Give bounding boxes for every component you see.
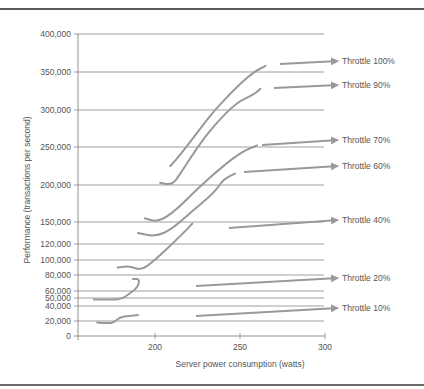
legend-label: Throttle 90% (342, 80, 391, 90)
y-tick-label: 100,000 (40, 255, 71, 265)
x-axis-title: Server power consumption (watts) (176, 359, 305, 369)
legend-arrow (196, 278, 338, 286)
legend-label: Throttle 40% (342, 215, 391, 225)
legend-arrow (244, 166, 338, 172)
legend-arrow (262, 140, 338, 145)
y-tick-label: 400,000 (40, 29, 71, 39)
y-axis-title: Performance (transactions per second) (22, 116, 32, 263)
y-tick-label: 300,000 (40, 105, 71, 115)
chart: 020,00040,00050,00060,00080,000100,00012… (0, 0, 424, 389)
curve-throttle-100- (170, 66, 265, 166)
y-tick-label: 60,000 (45, 286, 71, 296)
y-tick-label: 80,000 (45, 270, 71, 280)
y-tick-label: 200,000 (40, 180, 71, 190)
legend-label: Throttle 10% (342, 303, 391, 313)
legend-label: Throttle 60% (342, 161, 391, 171)
y-tick-label: 20,000 (45, 316, 71, 326)
x-tick-label: 250 (233, 342, 247, 352)
curve-throttle-40- (118, 224, 193, 269)
y-tick-label: 250,000 (40, 142, 71, 152)
y-tick-label: 150,000 (40, 217, 71, 227)
curve-throttle-60- (138, 174, 235, 236)
legend-arrow (229, 220, 338, 228)
curve-throttle-20- (94, 279, 139, 300)
axes: 020,00040,00050,00060,00080,000100,00012… (40, 29, 332, 352)
y-tick-label: 0 (66, 331, 71, 341)
gridlines (74, 34, 324, 321)
legend-label: Throttle 20% (342, 273, 391, 283)
legend-label: Throttle 100% (342, 56, 395, 66)
legend: Throttle 100%Throttle 90%Throttle 70%Thr… (196, 56, 395, 316)
legend-arrow (274, 85, 338, 88)
y-tick-label: 120,000 (40, 239, 71, 249)
legend-arrow (196, 308, 338, 316)
legend-label: Throttle 70% (342, 135, 391, 145)
legend-arrow (280, 61, 338, 64)
x-tick-label: 300 (318, 342, 332, 352)
curve-throttle-90- (160, 89, 260, 184)
curve-throttle-10- (97, 315, 138, 323)
y-tick-label: 350,000 (40, 67, 71, 77)
x-tick-label: 200 (148, 342, 162, 352)
